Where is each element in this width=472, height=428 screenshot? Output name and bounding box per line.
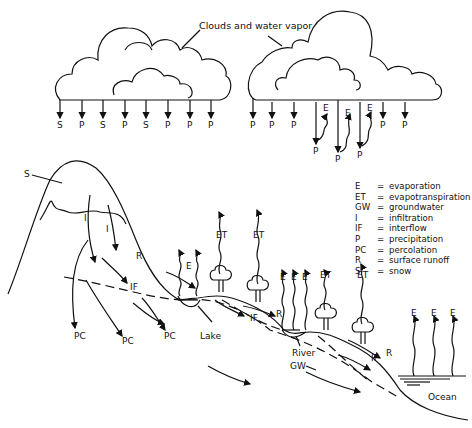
drop-label: E — [323, 104, 329, 113]
drop-label: P — [313, 147, 318, 156]
gw-leader — [306, 366, 316, 370]
drop-label: E — [345, 109, 351, 118]
ocean-surface — [398, 376, 466, 385]
label-leader-left — [182, 30, 200, 48]
runoff-label: R — [386, 349, 392, 358]
evaporation-label: E — [291, 273, 297, 282]
percolation-label: PC — [122, 337, 134, 346]
water-table — [64, 277, 400, 398]
clouds-label: Clouds and water vapor — [199, 21, 312, 31]
hydrologic-cycle-diagram: Clouds and water vapor S P S P S P P P P… — [0, 0, 472, 428]
legend: E=evaporation ET=evapotranspiration GW=g… — [355, 181, 471, 276]
drop-label: P — [79, 121, 84, 130]
evaporation-label: E — [186, 262, 192, 271]
evaporation-label: E — [411, 309, 417, 318]
et-label: ET — [253, 231, 264, 240]
drop-label: P — [380, 121, 385, 130]
infiltration-label: I — [84, 214, 87, 223]
legend-row: PC=percolation — [355, 245, 471, 256]
et-label: ET — [320, 271, 331, 280]
drop-label: S — [57, 121, 63, 130]
interflow-label: IF — [371, 354, 379, 363]
drop-label: P — [402, 121, 407, 130]
drop-label: P — [291, 121, 296, 130]
legend-row: P=precipitation — [355, 234, 471, 245]
snow-leader — [32, 175, 62, 183]
cloud-left — [56, 28, 231, 100]
rain-evaporation — [318, 112, 371, 152]
et-label: ET — [216, 231, 227, 240]
drop-label: S — [143, 121, 149, 130]
et-label: ET — [357, 271, 368, 280]
drop-label: P — [187, 121, 192, 130]
legend-row: GW=groundwater — [355, 202, 471, 213]
drop-label: P — [165, 121, 170, 130]
lake-leader — [198, 306, 212, 322]
legend-row: E=evaporation — [355, 181, 471, 192]
interflow-label: IF — [130, 283, 138, 292]
legend-row: I=infiltration — [355, 213, 471, 224]
evaporation-label: E — [280, 273, 286, 282]
evaporation-label: E — [450, 309, 456, 318]
ground-surface — [176, 296, 468, 420]
lake-label: Lake — [200, 332, 221, 341]
river-label: River — [292, 349, 315, 358]
label-leader-right — [268, 36, 282, 46]
runoff-label: R — [136, 252, 142, 261]
drop-label: P — [250, 121, 255, 130]
legend-row: S=snow — [355, 266, 471, 277]
drop-label: P — [335, 155, 340, 164]
flow-arrows — [73, 195, 380, 392]
cloud-left-drops — [60, 100, 211, 118]
drop-label: P — [208, 121, 213, 130]
percolation-label: PC — [74, 332, 86, 341]
mountain — [8, 161, 176, 298]
drop-label: E — [367, 104, 373, 113]
ocean-label: Ocean — [428, 393, 457, 402]
legend-row: ET=evapotranspiration — [355, 192, 471, 203]
groundwater-label: GW — [290, 362, 306, 371]
runoff-label: R — [276, 310, 282, 319]
drop-label: P — [357, 151, 362, 160]
legend-row: R=surface runoff — [355, 255, 471, 266]
evaporation-label: E — [302, 273, 308, 282]
interflow-label: IF — [250, 314, 258, 323]
percolation-label: PC — [164, 332, 176, 341]
snow-label: S — [24, 170, 30, 179]
drop-label: S — [100, 121, 106, 130]
infiltration-label: I — [106, 225, 109, 234]
drop-label: P — [269, 121, 274, 130]
river-leader — [296, 336, 300, 346]
evaporation-label: E — [431, 309, 437, 318]
drop-label: P — [122, 121, 127, 130]
legend-row: IF=interflow — [355, 223, 471, 234]
